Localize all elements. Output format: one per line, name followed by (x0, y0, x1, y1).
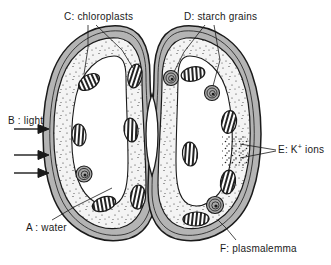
chloroplast (183, 212, 209, 227)
starch-grain (76, 166, 92, 182)
guard-cell-left (43, 26, 156, 241)
light-arrow (14, 169, 49, 178)
label-potassium-sep: : (285, 144, 288, 155)
starch-grain (164, 71, 179, 86)
label-potassium-element: K (291, 144, 298, 155)
label-light-text: B : light (8, 115, 43, 126)
label-potassium-suffix: ions (302, 144, 324, 155)
label-chloroplasts-text: C: chloroplasts (64, 11, 133, 22)
label-water-text: A : water (26, 222, 67, 233)
stoma-diagram: C: chloroplasts D: starch grains B : lig… (0, 0, 331, 265)
label-plasmalemma: F: plasmalemma (220, 243, 297, 254)
guard-cell-right (148, 26, 261, 241)
label-water: A : water (26, 222, 67, 233)
starch-grain (207, 197, 224, 214)
label-starch-grains-text: D: starch grains (184, 11, 257, 22)
potassium-ion-cloud (222, 136, 248, 166)
starch-grain (205, 86, 220, 101)
label-potassium-key: E (278, 144, 285, 155)
label-potassium-ions: E: K+ ions (278, 144, 324, 155)
label-chloroplasts: C: chloroplasts (64, 11, 133, 22)
label-light: B : light (8, 115, 43, 126)
label-starch-grains: D: starch grains (184, 11, 257, 22)
label-plasmalemma-text: F: plasmalemma (220, 243, 297, 254)
